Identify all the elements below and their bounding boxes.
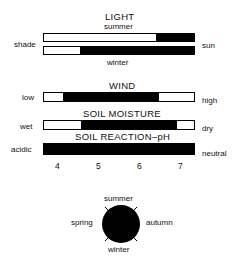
season-spring-label: spring bbox=[71, 219, 93, 227]
season-winter-label: winter bbox=[108, 246, 129, 254]
season-dial-icon bbox=[0, 0, 248, 264]
season-summer-label: summer bbox=[104, 195, 133, 203]
season-autumn-label: autumn bbox=[146, 219, 173, 227]
